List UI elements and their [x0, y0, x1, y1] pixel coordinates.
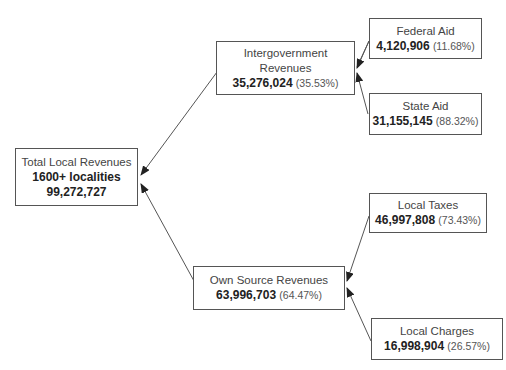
node-amount: 46,997,808	[375, 213, 435, 227]
node-percent: (88.32%)	[436, 115, 479, 127]
node-percent: (35.53%)	[296, 77, 339, 89]
node-state-aid: State Aid 31,155,145 (88.32%)	[369, 93, 482, 135]
node-title: State Aid	[402, 99, 448, 114]
edge-state-to-intergov	[357, 73, 368, 114]
node-amount: 63,996,703	[216, 288, 276, 302]
node-title: Local Charges	[400, 324, 474, 339]
node-percent: (26.57%)	[447, 340, 490, 352]
node-title: Total Local Revenues	[22, 155, 132, 170]
edge-own-to-total	[141, 184, 194, 281]
node-amount: 4,120,906	[376, 39, 429, 53]
edge-federal-to-intergov-arrow	[357, 41, 369, 68]
node-subtitle: 1600+ localities	[32, 170, 120, 185]
edge-charges-to-own	[347, 288, 371, 341]
node-total-local-revenues: Total Local Revenues 1600+ localities 99…	[15, 148, 138, 206]
node-local-taxes: Local Taxes 46,997,808 (73.43%)	[369, 193, 487, 233]
node-amount: 35,276,024	[233, 76, 293, 90]
node-local-charges: Local Charges 16,998,904 (26.57%)	[371, 318, 503, 360]
node-percent: (73.43%)	[438, 214, 481, 226]
node-value: 46,997,808 (73.43%)	[375, 213, 481, 228]
node-title: Own Source Revenues	[210, 273, 328, 288]
node-amount: 16,998,904	[384, 339, 444, 353]
edge-intergov-to-total	[141, 72, 217, 175]
node-amount: 99,272,727	[46, 185, 106, 200]
node-value: 35,276,024 (35.53%)	[233, 76, 339, 91]
node-own-source-revenues: Own Source Revenues 63,996,703 (64.47%)	[193, 266, 345, 310]
node-percent: (64.47%)	[279, 289, 322, 301]
node-percent: (11.68%)	[433, 40, 475, 52]
node-value: 16,998,904 (26.57%)	[384, 339, 490, 354]
node-intergovernment-revenues: Intergovernment Revenues 35,276,024 (35.…	[216, 41, 355, 95]
node-amount: 31,155,145	[373, 114, 433, 128]
edge-taxes-to-own	[347, 216, 369, 281]
node-title: Local Taxes	[398, 198, 459, 213]
node-title: Federal Aid	[396, 24, 454, 39]
node-value: 31,155,145 (88.32%)	[373, 114, 479, 129]
node-title-line2: Revenues	[260, 61, 312, 76]
node-value: 4,120,906 (11.68%)	[376, 39, 474, 54]
node-federal-aid: Federal Aid 4,120,906 (11.68%)	[369, 18, 482, 59]
node-title-line1: Intergovernment	[244, 46, 328, 61]
node-value: 63,996,703 (64.47%)	[216, 288, 322, 303]
